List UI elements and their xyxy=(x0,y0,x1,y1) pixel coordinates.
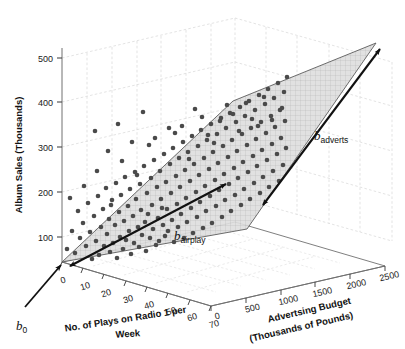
y-axis-title: Album Sales (Thousands) xyxy=(13,97,24,214)
data-point xyxy=(243,114,248,119)
data-point xyxy=(231,112,236,117)
data-point xyxy=(267,185,272,190)
data-point xyxy=(147,143,152,148)
data-point xyxy=(265,158,270,163)
data-point xyxy=(150,203,155,208)
data-point xyxy=(164,180,169,185)
data-point xyxy=(113,223,118,228)
data-point xyxy=(99,225,104,230)
data-point xyxy=(279,136,284,141)
x-tick-0: 0 xyxy=(59,275,67,286)
b0-arrow xyxy=(25,265,61,307)
data-point xyxy=(244,101,249,106)
data-point xyxy=(276,81,281,86)
data-point xyxy=(148,236,153,241)
data-point xyxy=(190,134,195,139)
data-point xyxy=(194,190,199,195)
data-point xyxy=(119,193,124,198)
data-point xyxy=(188,179,193,184)
data-point xyxy=(270,118,275,123)
data-point xyxy=(105,232,110,237)
b-airplay-label-sub: airplay xyxy=(181,235,207,245)
data-point xyxy=(199,128,204,133)
data-point xyxy=(246,170,251,175)
data-point xyxy=(126,204,131,209)
data-point xyxy=(203,184,208,189)
data-point xyxy=(154,243,159,248)
data-point xyxy=(132,241,137,246)
data-point xyxy=(184,196,189,201)
data-point xyxy=(237,129,242,134)
data-point xyxy=(101,207,106,212)
y-axis-album-sales xyxy=(57,48,62,262)
data-point xyxy=(241,160,246,165)
data-point xyxy=(272,96,277,101)
data-point xyxy=(117,210,122,215)
data-point xyxy=(232,166,237,171)
data-point xyxy=(135,173,140,178)
data-point xyxy=(140,233,145,238)
x-tick-20: 20 xyxy=(100,287,113,299)
data-point xyxy=(93,129,98,134)
data-point xyxy=(162,152,167,157)
data-point xyxy=(230,138,235,143)
data-point xyxy=(128,187,133,192)
data-point xyxy=(70,229,75,234)
data-point xyxy=(155,185,160,190)
data-point xyxy=(160,206,165,211)
data-point xyxy=(275,152,280,157)
data-point xyxy=(149,176,154,181)
data-point xyxy=(183,168,188,173)
z-tick-1500: 1500 xyxy=(311,285,333,299)
data-point xyxy=(94,239,99,244)
data-point xyxy=(260,148,265,153)
data-point xyxy=(215,132,220,137)
data-point xyxy=(141,110,146,115)
data-point xyxy=(224,126,229,131)
data-point xyxy=(280,106,285,111)
y-tick-300: 300 xyxy=(38,143,53,153)
x-axis-title-line2: Week xyxy=(115,327,141,340)
data-point xyxy=(122,219,127,224)
data-point xyxy=(177,156,182,161)
data-point xyxy=(251,154,256,159)
z-tick-500: 500 xyxy=(244,302,261,315)
data-point xyxy=(174,174,179,179)
data-point xyxy=(161,223,166,228)
data-point xyxy=(116,122,121,127)
data-point xyxy=(123,175,128,180)
b0-label: b0 xyxy=(16,318,28,335)
data-point xyxy=(86,201,91,206)
data-point xyxy=(134,197,139,202)
data-point xyxy=(255,164,260,169)
data-point xyxy=(192,162,197,167)
data-point xyxy=(281,163,286,168)
data-point xyxy=(261,175,266,180)
data-point xyxy=(76,209,81,214)
data-point xyxy=(201,226,206,231)
b0-label-sub: 0 xyxy=(23,325,28,335)
data-point xyxy=(139,208,144,213)
scatter-plot-3d: 500 400 300 200 100 Album Sales (Thousan… xyxy=(0,0,405,349)
data-point xyxy=(206,133,211,138)
data-point xyxy=(189,206,194,211)
x-axis-title: No. of Plays on Radio 1 per Week xyxy=(64,303,188,339)
data-point xyxy=(245,143,250,148)
data-point xyxy=(153,136,158,141)
data-point xyxy=(236,176,241,181)
data-point xyxy=(218,119,223,124)
data-point xyxy=(209,122,214,127)
b-adverts-label-sub: adverts xyxy=(321,135,349,145)
data-point xyxy=(226,155,231,160)
y-tick-100: 100 xyxy=(38,233,53,243)
data-point xyxy=(159,197,164,202)
y-tick-200: 200 xyxy=(38,188,53,198)
data-point xyxy=(239,203,244,208)
data-point xyxy=(196,144,201,149)
data-point xyxy=(106,149,111,154)
b-adverts-label: badverts xyxy=(314,128,348,145)
data-point xyxy=(284,146,289,151)
data-point xyxy=(257,93,262,98)
data-point xyxy=(81,221,86,226)
data-point xyxy=(110,198,115,203)
